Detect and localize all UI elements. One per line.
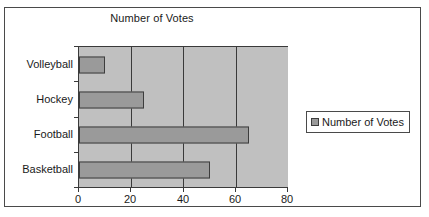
chart-legend[interactable]: Number of Votes	[306, 111, 410, 133]
y-axis-label-basketball: Basketball	[8, 163, 78, 175]
legend-label: Number of Votes	[322, 116, 404, 128]
x-axis-tick	[78, 188, 79, 192]
bar-hockey[interactable]	[79, 91, 144, 108]
bar-row	[79, 153, 288, 188]
x-axis-label-20: 20	[115, 193, 145, 205]
bar-row	[79, 82, 288, 117]
legend-swatch-icon	[311, 118, 319, 126]
x-axis-tick	[183, 188, 184, 192]
x-axis-label-60: 60	[220, 193, 250, 205]
bar-row	[79, 47, 288, 82]
chart-frame: Number of Votes Volleyball Hockey Footba…	[4, 7, 421, 207]
x-axis-tick	[235, 188, 236, 192]
x-axis-tick	[130, 188, 131, 192]
bar-row	[79, 118, 288, 153]
x-axis-label-40: 40	[168, 193, 198, 205]
x-axis-label-80: 80	[272, 193, 302, 205]
y-axis-label-football: Football	[8, 128, 78, 140]
y-axis-labels: Volleyball Hockey Football Basketball	[5, 46, 78, 187]
bar-basketball[interactable]	[79, 162, 210, 179]
bar-volleyball[interactable]	[79, 56, 105, 73]
x-axis-label-0: 0	[63, 193, 93, 205]
y-axis-label-hockey: Hockey	[8, 93, 78, 105]
plot-area	[78, 46, 288, 188]
x-axis-tick	[287, 188, 288, 192]
bar-football[interactable]	[79, 127, 249, 144]
y-axis-label-volleyball: Volleyball	[8, 58, 78, 70]
chart-title: Number of Votes	[5, 12, 299, 24]
